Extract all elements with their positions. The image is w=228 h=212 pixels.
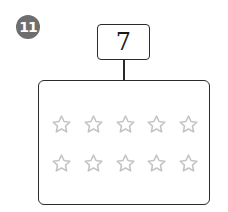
star-outline-icon[interactable] <box>115 114 136 135</box>
star-outline-icon[interactable] <box>83 114 104 135</box>
star-outline-icon[interactable] <box>178 114 199 135</box>
star-outline-icon[interactable] <box>146 114 167 135</box>
star-outline-icon[interactable] <box>115 153 136 174</box>
star-outline-icon[interactable] <box>51 114 72 135</box>
star-outline-icon[interactable] <box>146 153 167 174</box>
star-frame <box>38 80 210 205</box>
star-outline-icon[interactable] <box>83 153 104 174</box>
problem-number-badge: 11 <box>16 15 40 39</box>
star-outline-icon[interactable] <box>51 153 72 174</box>
star-outline-icon[interactable] <box>178 153 199 174</box>
connector-line <box>123 60 125 80</box>
target-number-box: 7 <box>97 24 150 60</box>
